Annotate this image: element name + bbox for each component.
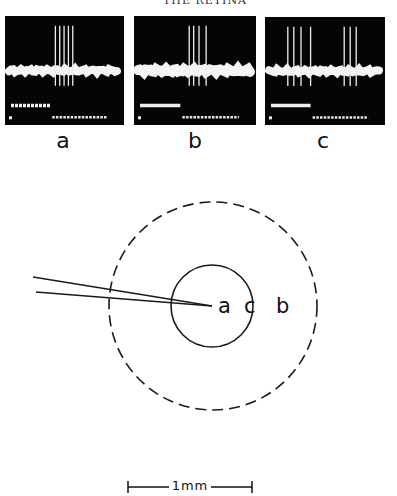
page-header-text: THE RETINA: [150, 0, 260, 7]
scale-bar: 1mm: [126, 476, 254, 496]
oscilloscope-panel-c: [265, 17, 385, 125]
diagram-label-a: a: [218, 294, 231, 318]
diagram-label-b: b: [276, 294, 289, 318]
electrode-line-lower: [36, 292, 212, 306]
diagram-label-c: c: [244, 294, 256, 318]
oscilloscope-panel-a: [5, 16, 124, 125]
electrode-line-upper: [33, 277, 212, 306]
receptive-field-diagram: a c b: [0, 150, 397, 470]
oscilloscope-panel-b: [134, 16, 256, 125]
scale-bar-label: 1mm: [169, 478, 212, 493]
